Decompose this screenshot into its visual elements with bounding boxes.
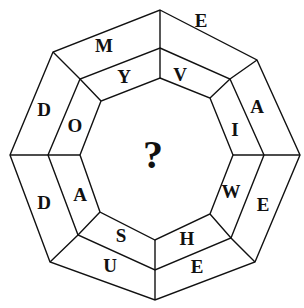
outer-letter-left-upper: D: [37, 99, 51, 120]
inner-letter-right-upper: I: [231, 119, 238, 140]
inner-letter-top-left: Y: [117, 66, 131, 87]
inner-letter-top-right: V: [173, 64, 187, 85]
octagon-letter-puzzle: E A E E U D D M V I W H S A O Y ?: [0, 0, 304, 308]
inner-letter-left-upper: O: [68, 115, 83, 136]
outer-letter-left-lower: D: [37, 192, 51, 213]
inner-letter-left-lower: A: [73, 184, 87, 205]
outer-letter-right-lower: E: [257, 194, 270, 215]
center-question-mark: ?: [143, 132, 163, 177]
outer-letter-top-right: E: [195, 10, 208, 31]
outer-letter-bottom-right: E: [191, 256, 204, 277]
inner-letter-bottom-left: S: [116, 225, 127, 246]
outer-letter-right-upper: A: [250, 96, 264, 117]
inner-letter-right-lower: W: [222, 181, 241, 202]
outer-letter-top-left: M: [95, 35, 113, 56]
inner-letter-bottom-right: H: [180, 228, 195, 249]
outer-letter-bottom-left: U: [103, 255, 117, 276]
